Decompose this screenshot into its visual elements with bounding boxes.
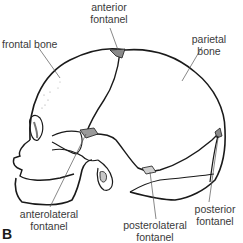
label-line: anterolateral <box>16 208 82 220</box>
label-line: parietal <box>186 33 232 45</box>
leader-anterolateral-fontanel <box>50 134 86 207</box>
label-line: fontanel <box>79 13 139 25</box>
anterior-fontanel-shape <box>110 49 125 58</box>
coronal-suture <box>86 52 120 134</box>
label-line: anterior <box>79 1 139 13</box>
cranial-vault-outline <box>30 49 225 200</box>
label-parietal-bone: parietal bone <box>186 33 232 57</box>
label-line: posterolateral <box>121 219 189 231</box>
posterolateral-fontanel-shape <box>142 166 156 174</box>
mandible <box>15 160 92 205</box>
facial-skeleton <box>13 140 74 180</box>
external-ear-canal <box>100 171 107 182</box>
label-line: frontal bone <box>2 38 57 50</box>
label-line: fontanel <box>16 220 82 232</box>
orbit-shading <box>34 122 37 138</box>
label-anterolateral-fontanel: anterolateral fontanel <box>16 208 82 232</box>
leader-frontal-bone <box>38 47 60 78</box>
label-line: fontanel <box>192 215 238 227</box>
label-line: posterior <box>192 203 238 215</box>
frontal-stipple <box>41 82 60 109</box>
label-anterior-fontanel: anterior fontanel <box>79 1 139 25</box>
leader-posterior-fontanel <box>209 138 218 202</box>
zygomatic-arch <box>52 149 98 161</box>
occipital-contour <box>130 174 214 192</box>
label-frontal-bone: frontal bone <box>2 38 57 50</box>
label-posterolateral-fontanel: posterolateral fontanel <box>121 219 189 243</box>
leader-posterolateral-fontanel <box>150 172 156 219</box>
label-posterior-fontanel: posterior fontanel <box>192 203 238 227</box>
label-line: bone <box>186 45 232 57</box>
panel-letter: B <box>2 226 12 242</box>
leader-anterior-fontanel <box>110 28 118 50</box>
infant-skull-figure: anterior fontanel frontal bone parietal … <box>0 0 243 243</box>
anterolateral-fontanel-shape <box>80 128 98 138</box>
label-line: fontanel <box>121 231 189 243</box>
